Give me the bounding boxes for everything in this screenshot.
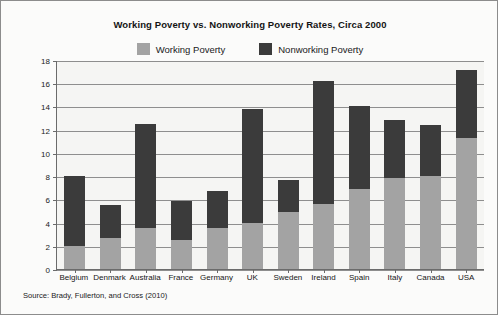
bar-group-denmark[interactable]: [93, 61, 129, 269]
bar-group-spain[interactable]: [342, 61, 378, 269]
x-axis-label-usa: USA: [448, 273, 484, 282]
x-axis-label-uk: UK: [234, 273, 270, 282]
bar-segment-nonworking-poverty[interactable]: [64, 176, 85, 246]
bar-stack[interactable]: [64, 176, 85, 269]
bar-segment-working-poverty[interactable]: [207, 228, 228, 269]
bar-segment-working-poverty[interactable]: [384, 178, 405, 269]
y-tick-label-4: 4: [46, 219, 50, 228]
chart-title: Working Poverty vs. Nonworking Poverty R…: [1, 19, 498, 30]
legend-item-working-poverty: Working Poverty: [137, 43, 226, 55]
bar-segment-nonworking-poverty[interactable]: [278, 180, 299, 213]
bar-segment-nonworking-poverty[interactable]: [384, 120, 405, 178]
y-tick-label-8: 8: [46, 173, 50, 182]
y-tick-mark-0: [53, 270, 57, 271]
legend-swatch-working-poverty: [137, 43, 150, 55]
bar-segment-working-poverty[interactable]: [135, 228, 156, 269]
bar-segment-nonworking-poverty[interactable]: [207, 191, 228, 228]
x-axis-label-france: France: [163, 273, 199, 282]
x-axis-label-denmark: Denmark: [92, 273, 128, 282]
bar-group-germany[interactable]: [199, 61, 235, 269]
plot-wrapper: 024681012141618: [56, 61, 484, 270]
y-tick-label-0: 0: [46, 266, 50, 275]
bar-segment-working-poverty[interactable]: [313, 204, 334, 269]
bar-group-ireland[interactable]: [306, 61, 342, 269]
bar-segment-nonworking-poverty[interactable]: [456, 70, 477, 137]
bar-segment-working-poverty[interactable]: [278, 212, 299, 269]
y-tick-label-6: 6: [46, 196, 50, 205]
bar-group-uk[interactable]: [235, 61, 271, 269]
bar-segment-working-poverty[interactable]: [420, 176, 441, 269]
legend-swatch-nonworking-poverty: [259, 43, 272, 55]
bar-stack[interactable]: [349, 106, 370, 269]
x-axis-label-australia: Australia: [127, 273, 163, 282]
bar-segment-working-poverty[interactable]: [100, 238, 121, 269]
bar-stack[interactable]: [384, 120, 405, 269]
bar-segment-working-poverty[interactable]: [349, 189, 370, 269]
bar-stack[interactable]: [456, 70, 477, 269]
bar-stack[interactable]: [207, 191, 228, 269]
legend-label-working-poverty: Working Poverty: [156, 44, 226, 55]
y-tick-label-14: 14: [41, 103, 50, 112]
legend-label-nonworking-poverty: Nonworking Poverty: [278, 44, 363, 55]
y-tick-label-16: 16: [41, 80, 50, 89]
bar-stack[interactable]: [242, 109, 263, 269]
bar-stack[interactable]: [135, 124, 156, 269]
x-axis-label-sweden: Sweden: [270, 273, 306, 282]
source-note: Source: Brady, Fullerton, and Cross (201…: [23, 291, 167, 300]
bar-group-belgium[interactable]: [57, 61, 93, 269]
bar-segment-nonworking-poverty[interactable]: [349, 106, 370, 188]
chart-legend: Working Poverty Nonworking Poverty: [1, 43, 498, 55]
chart-figure: Working Poverty vs. Nonworking Poverty R…: [0, 0, 498, 315]
y-tick-label-12: 12: [41, 126, 50, 135]
bar-segment-nonworking-poverty[interactable]: [313, 81, 334, 204]
x-axis-label-italy: Italy: [377, 273, 413, 282]
plot-area: 024681012141618: [56, 61, 484, 270]
legend-item-nonworking-poverty: Nonworking Poverty: [259, 43, 363, 55]
gridline-0: [57, 270, 484, 271]
bar-stack[interactable]: [313, 81, 334, 269]
y-tick-label-2: 2: [46, 242, 50, 251]
bar-segment-nonworking-poverty[interactable]: [420, 125, 441, 176]
bar-segment-nonworking-poverty[interactable]: [171, 201, 192, 240]
bar-group-sweden[interactable]: [270, 61, 306, 269]
bar-segment-working-poverty[interactable]: [171, 240, 192, 269]
x-axis-label-belgium: Belgium: [56, 273, 92, 282]
y-tick-label-10: 10: [41, 149, 50, 158]
x-axis-label-germany: Germany: [199, 273, 235, 282]
bar-stack[interactable]: [420, 125, 441, 269]
y-tick-label-18: 18: [41, 57, 50, 66]
bar-group-france[interactable]: [164, 61, 200, 269]
bar-segment-nonworking-poverty[interactable]: [242, 109, 263, 223]
bar-stack[interactable]: [171, 201, 192, 269]
bar-series: [57, 61, 484, 269]
bar-segment-nonworking-poverty[interactable]: [135, 124, 156, 229]
bar-group-australia[interactable]: [128, 61, 164, 269]
bar-stack[interactable]: [100, 205, 121, 269]
bar-segment-working-poverty[interactable]: [456, 138, 477, 269]
bar-group-usa[interactable]: [448, 61, 484, 269]
x-axis-labels: BelgiumDenmarkAustraliaFranceGermanyUKSw…: [56, 273, 484, 282]
bar-segment-working-poverty[interactable]: [242, 223, 263, 269]
bar-group-italy[interactable]: [377, 61, 413, 269]
bar-segment-working-poverty[interactable]: [64, 246, 85, 269]
bar-stack[interactable]: [278, 180, 299, 269]
x-axis-label-ireland: Ireland: [306, 273, 342, 282]
bar-group-canada[interactable]: [413, 61, 449, 269]
x-axis-label-canada: Canada: [413, 273, 449, 282]
x-axis-label-spain: Spain: [341, 273, 377, 282]
bar-segment-nonworking-poverty[interactable]: [100, 205, 121, 238]
